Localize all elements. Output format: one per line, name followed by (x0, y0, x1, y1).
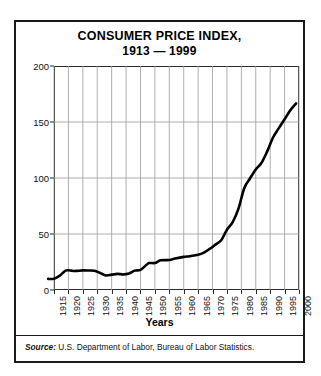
plot-area: 0501001502001915192019251930193519401945… (54, 66, 299, 290)
source-text: U.S. Department of Labor, Bureau of Labo… (56, 342, 254, 352)
source-divider (16, 335, 303, 336)
x-axis-tick (285, 290, 286, 294)
x-axis-tick (198, 290, 199, 294)
x-axis-tick (140, 290, 141, 294)
x-axis-tick (83, 290, 84, 294)
x-axis-tick (112, 290, 113, 294)
x-axis-tick (97, 290, 98, 294)
x-axis-tick (256, 290, 257, 294)
x-axis-label: 1920 (72, 296, 82, 316)
x-axis-tick (241, 290, 242, 294)
chart-title-line-2: 1913 — 1999 (16, 44, 303, 59)
cpi-line-series (54, 66, 299, 290)
x-axis-tick (184, 290, 185, 294)
x-axis-label: 1970 (216, 296, 226, 316)
x-axis-label: 1960 (187, 296, 197, 316)
source-label: Source: (25, 342, 56, 352)
x-axis-label: 1990 (274, 296, 284, 316)
y-axis-tick (50, 234, 54, 235)
x-axis-label: 1955 (173, 296, 183, 316)
y-axis-label: 0 (44, 285, 49, 296)
y-axis-label: 200 (33, 61, 49, 72)
x-axis-label: 1935 (115, 296, 125, 316)
x-axis-tick (169, 290, 170, 294)
x-axis-label: 1940 (130, 296, 140, 316)
chart-title-line-1: CONSUMER PRICE INDEX, (16, 29, 303, 44)
x-axis-tick (213, 290, 214, 294)
x-axis-label: 1975 (230, 296, 240, 316)
chart-figure: CONSUMER PRICE INDEX, 1913 — 1999 050100… (14, 20, 305, 363)
x-axis-label: 1925 (86, 296, 96, 316)
x-axis-tick (270, 290, 271, 294)
x-axis-tick (68, 290, 69, 294)
x-axis-label: 1980 (245, 296, 255, 316)
y-axis-label: 100 (33, 173, 49, 184)
y-axis-tick (50, 178, 54, 179)
y-axis-label: 150 (33, 117, 49, 128)
chart-title: CONSUMER PRICE INDEX, 1913 — 1999 (16, 29, 303, 59)
x-axis-tick (299, 290, 300, 294)
y-axis-tick (50, 122, 54, 123)
x-axis-label: 1995 (288, 296, 298, 316)
source-note: Source: U.S. Department of Labor, Bureau… (25, 342, 254, 352)
x-axis-tick (227, 290, 228, 294)
x-axis-title: Years (16, 316, 303, 328)
x-axis-label: 1950 (158, 296, 168, 316)
y-axis-label: 50 (38, 229, 49, 240)
x-axis-label: 1945 (144, 296, 154, 316)
x-axis-label: 1985 (259, 296, 269, 316)
cpi-line-path (48, 103, 296, 279)
x-axis-tick (126, 290, 127, 294)
x-axis-label: 2000 (303, 296, 313, 316)
x-axis-label: 1930 (101, 296, 111, 316)
x-axis-tick (155, 290, 156, 294)
x-axis-label: 1965 (202, 296, 212, 316)
x-axis-tick (54, 290, 55, 294)
x-axis-label: 1915 (58, 296, 68, 316)
y-axis-tick (50, 66, 54, 67)
